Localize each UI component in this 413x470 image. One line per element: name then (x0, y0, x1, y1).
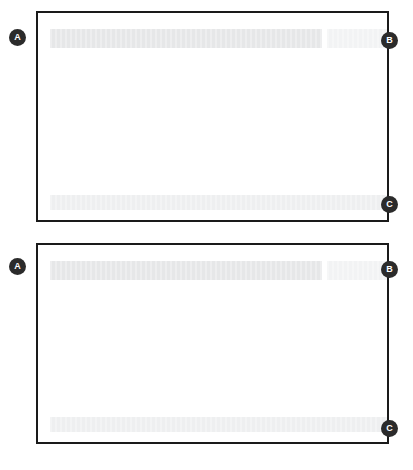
callout-badge-c-panel-2[interactable]: C (381, 420, 398, 437)
panel-1-content (38, 13, 387, 220)
panel-2-content (38, 245, 387, 442)
panel-1-body-area (50, 54, 383, 184)
panel-1-header-bar (50, 29, 322, 48)
annotated-panel-1 (36, 11, 389, 222)
callout-badge-a-panel-2[interactable]: A (9, 258, 26, 275)
panel-2-body-area (50, 286, 383, 406)
callout-badge-c-panel-1[interactable]: C (381, 196, 398, 213)
annotated-panel-2 (36, 243, 389, 444)
callout-badge-b-panel-1[interactable]: B (381, 32, 398, 49)
panel-1-footer-bar (50, 195, 387, 210)
callout-badge-a-panel-1[interactable]: A (9, 29, 26, 46)
panel-2-header-bar-secondary (327, 261, 387, 280)
panel-1-header-bar-secondary (327, 29, 387, 48)
callout-badge-b-panel-2[interactable]: B (381, 261, 398, 278)
panel-2-header-bar (50, 261, 322, 280)
panel-2-footer-bar (50, 417, 387, 432)
